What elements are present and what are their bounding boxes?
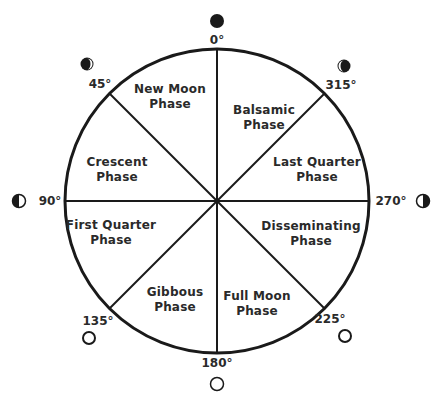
phase-label-new-moon: New MoonPhase bbox=[134, 82, 206, 112]
phase-name: Full Moon bbox=[223, 289, 290, 304]
angle-label-180: 180° bbox=[201, 356, 232, 370]
phase-label-balsamic: BalsamicPhase bbox=[233, 103, 295, 133]
phase-label-gibbous: GibbousPhase bbox=[147, 285, 203, 315]
phase-label-disseminating: DisseminatingPhase bbox=[261, 219, 360, 249]
phase-word: Phase bbox=[134, 97, 206, 112]
angle-label-270: 270° bbox=[375, 194, 406, 208]
angle-label-315: 315° bbox=[325, 78, 356, 92]
phase-label-first-quarter: First QuarterPhase bbox=[66, 218, 156, 248]
phase-name: Balsamic bbox=[233, 103, 295, 118]
phase-word: Phase bbox=[86, 170, 147, 185]
last-quarter-icon bbox=[417, 195, 430, 208]
phase-name: Crescent bbox=[86, 155, 147, 170]
phase-name: Disseminating bbox=[261, 219, 360, 234]
phase-label-last-quarter: Last QuarterPhase bbox=[273, 155, 361, 185]
full-moon-icon bbox=[211, 378, 224, 391]
angle-label-0: 0° bbox=[210, 33, 224, 47]
waxing-gibbous-icon bbox=[83, 332, 95, 344]
phase-word: Phase bbox=[66, 233, 156, 248]
phase-name: First Quarter bbox=[66, 218, 156, 233]
phase-word: Phase bbox=[273, 170, 361, 185]
phase-name: New Moon bbox=[134, 82, 206, 97]
phase-name: Last Quarter bbox=[273, 155, 361, 170]
waxing-crescent-icon bbox=[81, 58, 94, 71]
angle-label-225: 225° bbox=[314, 312, 345, 326]
lunar-phase-wheel bbox=[0, 0, 437, 403]
waning-crescent-icon bbox=[338, 60, 351, 73]
sector-dividers bbox=[65, 49, 369, 353]
phase-word: Phase bbox=[233, 118, 295, 133]
angle-label-90: 90° bbox=[39, 194, 62, 208]
waning-gibbous-icon bbox=[339, 330, 351, 342]
first-quarter-icon bbox=[13, 195, 26, 208]
phase-word: Phase bbox=[261, 234, 360, 249]
angle-label-45: 45° bbox=[89, 77, 112, 91]
phase-label-full-moon: Full MoonPhase bbox=[223, 289, 290, 319]
phase-label-crescent: CrescentPhase bbox=[86, 155, 147, 185]
phase-word: Phase bbox=[147, 300, 203, 315]
phase-word: Phase bbox=[223, 304, 290, 319]
phase-name: Gibbous bbox=[147, 285, 203, 300]
angle-label-135: 135° bbox=[82, 314, 113, 328]
new-moon-icon bbox=[210, 14, 224, 28]
